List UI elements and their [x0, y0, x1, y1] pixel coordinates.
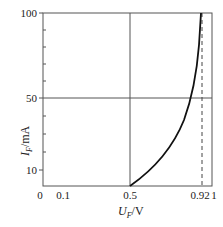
x-tick-0: 0	[37, 189, 43, 201]
x-tick-0.1: 0.1	[56, 189, 70, 201]
x-tick-1: 1	[211, 189, 217, 201]
y-axis-label: IF/mA	[18, 125, 34, 157]
forward-characteristic-curve	[130, 13, 201, 186]
x-tick-0.5: 0.5	[123, 189, 137, 201]
iv-curve-chart: 100 50 10 0 0.1 0.5 0.92 1 UF/V IF/mA	[0, 0, 223, 227]
x-axis-label: UF/V	[118, 204, 144, 220]
y-tick-100: 100	[21, 7, 38, 19]
x-tick-0.92: 0.92	[190, 189, 209, 201]
plot-frame	[43, 13, 212, 186]
y-tick-10: 10	[26, 164, 38, 176]
y-tick-50: 50	[26, 92, 38, 104]
